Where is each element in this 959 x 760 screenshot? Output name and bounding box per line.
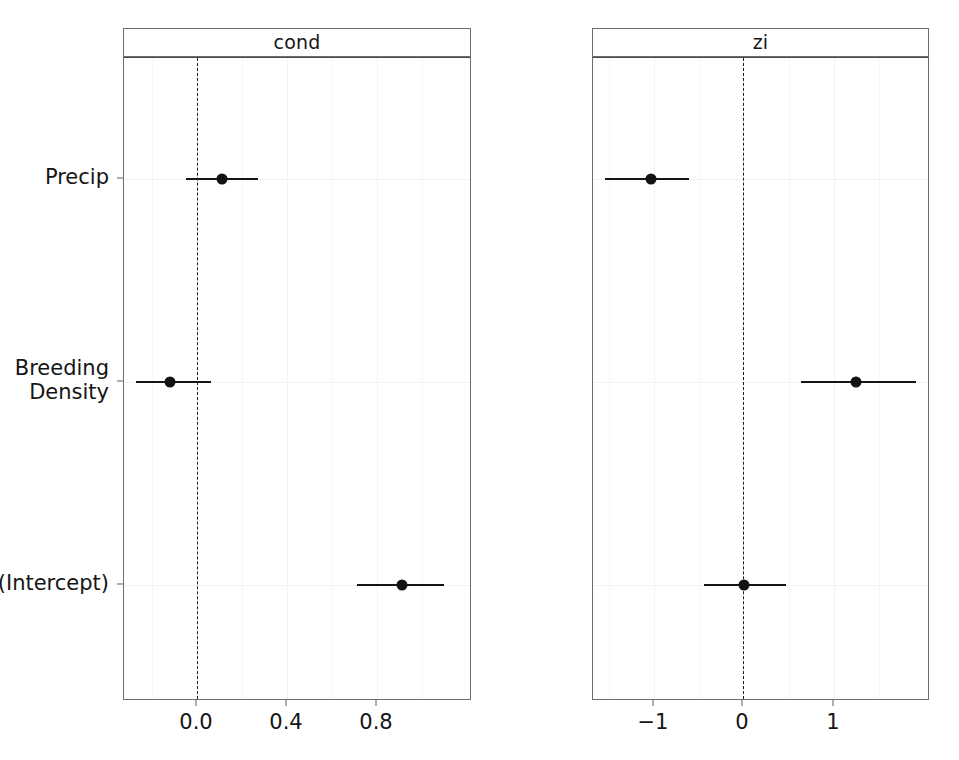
gridline-x-1 [834, 58, 835, 699]
panel-strip-label-zi: zi [753, 33, 769, 52]
y-axis-label-precip: Precip [0, 166, 109, 190]
gridline-x-0.4 [287, 58, 288, 699]
panel-body-cond [123, 57, 471, 700]
gridline-x-minor-0.2 [242, 58, 243, 699]
point-estimate-breeding-density [165, 377, 176, 388]
x-tick-label-neg1: −1 [638, 712, 669, 733]
x-tick-mark-0.8 [376, 700, 377, 706]
point-estimate-breeding-density [851, 377, 862, 388]
panel-strip-cond: cond [123, 28, 471, 57]
gridline-x-minor-neg0.5 [699, 58, 700, 699]
x-tick-mark-1 [833, 700, 834, 706]
x-tick-mark-0 [742, 700, 743, 706]
y-axis-label-breeding-density: Breeding Density [0, 357, 109, 404]
point-estimate-precip [217, 174, 228, 185]
x-tick-label-0.4: 0.4 [269, 712, 302, 733]
gridline-y-precip [124, 179, 470, 180]
x-tick-label-0: 0 [735, 712, 748, 733]
gridline-x-minor-neg1.5 [609, 58, 610, 699]
x-tick-label-0.8: 0.8 [359, 712, 392, 733]
point-estimate-precip [646, 174, 657, 185]
gridline-x-minor-0.6 [332, 58, 333, 699]
gridline-x-neg1 [654, 58, 655, 699]
x-tick-label-0.0: 0.0 [179, 712, 212, 733]
gridline-x-minor-1.0 [422, 58, 423, 699]
panel-strip-zi: zi [592, 28, 929, 57]
zero-reference-line [743, 58, 744, 699]
panel-body-zi [592, 57, 929, 700]
panel-cond: cond [123, 28, 471, 700]
panel-strip-label-cond: cond [274, 33, 321, 52]
x-tick-mark-0.4 [286, 700, 287, 706]
zero-reference-line [197, 58, 198, 699]
panel-zi: zi [592, 28, 929, 700]
point-estimate-intercept [739, 580, 750, 591]
coefficient-plot: Precip Breeding Density (Intercept) cond [0, 0, 959, 760]
point-estimate-intercept [397, 580, 408, 591]
x-tick-label-1: 1 [826, 712, 839, 733]
gridline-x-minor-neg0.2 [152, 58, 153, 699]
y-axis-label-intercept: (Intercept) [0, 572, 109, 596]
gridline-x-0.8 [377, 58, 378, 699]
gridline-x-minor-0.5 [789, 58, 790, 699]
x-tick-mark-0.0 [196, 700, 197, 706]
x-tick-mark-neg1 [653, 700, 654, 706]
gridline-x-minor-1.5 [879, 58, 880, 699]
